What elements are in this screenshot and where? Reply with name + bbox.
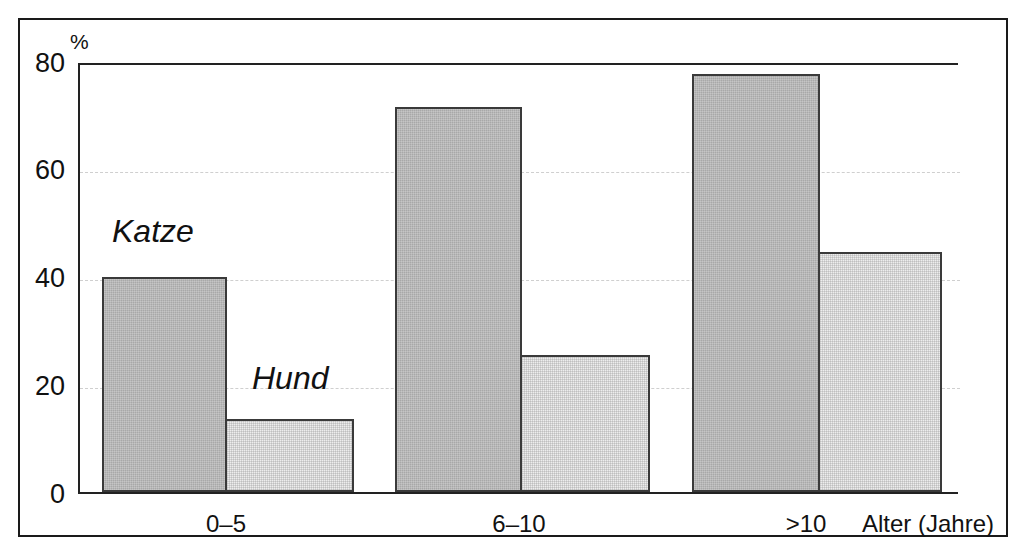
x-tick-label-0-5: 0–5 — [206, 510, 246, 538]
chart-figure: % 80 60 40 20 0 Katze Hund 0–5 6–10 >10 … — [0, 0, 1021, 560]
series-label-hund: Hund — [252, 360, 329, 397]
y-axis: 80 60 40 20 0 — [0, 0, 78, 560]
bar-hund-0-5[interactable] — [225, 419, 354, 492]
x-axis-title: Alter (Jahre) — [862, 510, 994, 538]
y-tick-label-40: 40 — [35, 263, 65, 294]
y-tick-label-60: 60 — [35, 155, 65, 186]
bar-hund-gt10[interactable] — [818, 252, 942, 492]
bar-katze-6-10[interactable] — [395, 107, 522, 492]
y-tick-label-80: 80 — [35, 48, 65, 79]
series-label-katze: Katze — [112, 213, 194, 250]
bar-katze-gt10[interactable] — [692, 74, 820, 492]
x-tick-label-gt10: >10 — [786, 510, 827, 538]
y-tick-label-0: 0 — [50, 479, 65, 510]
bar-katze-0-5[interactable] — [102, 277, 227, 492]
x-tick-label-6-10: 6–10 — [492, 510, 545, 538]
bar-hund-6-10[interactable] — [520, 355, 650, 492]
y-tick-label-20: 20 — [35, 371, 65, 402]
plot-area: Katze Hund — [78, 63, 958, 494]
